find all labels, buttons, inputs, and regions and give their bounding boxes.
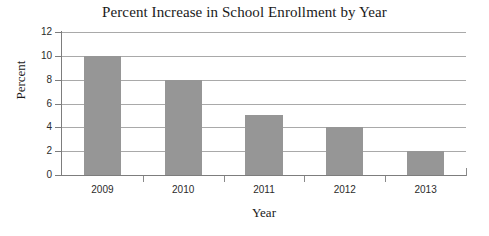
y-axis-tick-label: 6 (22, 98, 52, 109)
y-axis-tick-label: 0 (22, 169, 52, 180)
gridline (62, 32, 466, 33)
x-axis-tick-label: 2010 (143, 184, 224, 195)
y-axis-tick-label: 2 (22, 145, 52, 156)
chart-screenshot: Percent Increase in School Enrollment by… (0, 0, 489, 236)
y-axis-tick-label: 12 (22, 26, 52, 37)
x-axis-line (61, 175, 467, 176)
bar (326, 127, 363, 175)
chart-title: Percent Increase in School Enrollment by… (0, 4, 489, 21)
plot-area (62, 32, 466, 175)
x-axis-end-tick (466, 168, 467, 176)
gridline (62, 104, 466, 105)
x-axis-separator-tick (304, 176, 305, 182)
y-axis-tick-label: 10 (22, 50, 52, 61)
x-axis-separator-tick (143, 176, 144, 182)
bar (84, 56, 121, 175)
x-axis-separator-tick (385, 176, 386, 182)
x-axis-tick-label: 2011 (224, 184, 305, 195)
bar (165, 80, 202, 175)
x-axis-tick-label: 2009 (62, 184, 143, 195)
x-axis-separator-tick (224, 176, 225, 182)
bar (245, 115, 282, 175)
gridline (62, 56, 466, 57)
gridline (62, 80, 466, 81)
x-axis-title: Year (62, 205, 466, 221)
bar (407, 151, 444, 175)
y-axis-tick-label: 4 (22, 121, 52, 132)
x-axis-tick-label: 2013 (385, 184, 466, 195)
x-axis-tick-label: 2012 (304, 184, 385, 195)
y-axis-tick-label: 8 (22, 74, 52, 85)
